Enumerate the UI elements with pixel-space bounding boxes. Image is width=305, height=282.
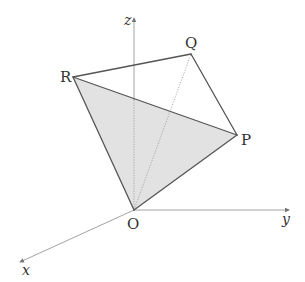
tetrahedron-diagram: x y z O P Q R — [0, 0, 305, 282]
z-axis-label: z — [123, 12, 132, 28]
x-axis — [20, 210, 134, 262]
y-axis-label: y — [281, 211, 291, 227]
point-p-label: P — [241, 131, 251, 149]
x-axis-label: x — [22, 262, 30, 278]
point-q-label: Q — [185, 34, 197, 52]
edge-rq — [73, 54, 191, 77]
point-o-label: O — [127, 215, 139, 233]
shaded-face-orp — [73, 77, 237, 210]
point-r-label: R — [60, 68, 72, 86]
diagram-svg: x y z O P Q R — [0, 0, 305, 282]
